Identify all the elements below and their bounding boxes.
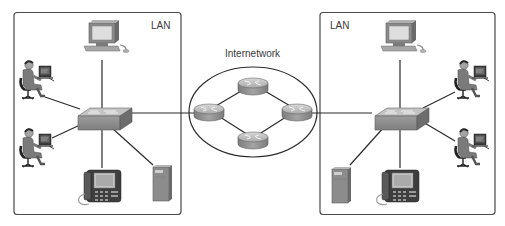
network-diagram bbox=[0, 0, 505, 226]
lan-right-label: LAN bbox=[330, 20, 349, 31]
right-desktop-pc-icon bbox=[381, 20, 426, 53]
lan-left-label: LAN bbox=[151, 20, 170, 31]
right-switch-icon bbox=[375, 108, 429, 130]
router-bottom-icon bbox=[238, 132, 268, 149]
right-server-icon bbox=[332, 167, 351, 203]
right-user-workstation-1-icon bbox=[456, 61, 490, 99]
right-user-workstation-2-icon bbox=[456, 129, 490, 167]
router-left-icon bbox=[194, 104, 224, 121]
left-desktop-pc-icon bbox=[84, 20, 129, 53]
left-ip-phone-icon bbox=[79, 170, 121, 205]
left-server-icon bbox=[153, 165, 172, 201]
left-user-workstation-1-icon bbox=[21, 61, 55, 99]
left-user-workstation-2-icon bbox=[21, 129, 55, 167]
right-ip-phone-icon bbox=[377, 170, 419, 205]
router-top-icon bbox=[238, 78, 268, 95]
left-switch-icon bbox=[78, 108, 132, 130]
internetwork-label: Internetwork bbox=[225, 48, 280, 59]
router-right-icon bbox=[282, 104, 312, 121]
